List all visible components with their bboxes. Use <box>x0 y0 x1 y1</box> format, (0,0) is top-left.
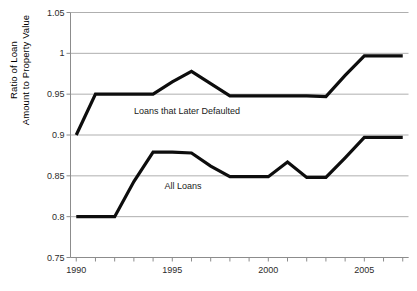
data-line <box>76 56 402 135</box>
plot-area <box>0 0 417 291</box>
gridlines <box>71 13 409 258</box>
chart-container: Ratio of Loan Amount to Property Value 1… <box>0 0 417 291</box>
data-series-lines <box>76 56 402 217</box>
data-line <box>76 137 402 216</box>
x-tickmarks <box>76 258 402 262</box>
y-tickmarks <box>67 13 71 258</box>
